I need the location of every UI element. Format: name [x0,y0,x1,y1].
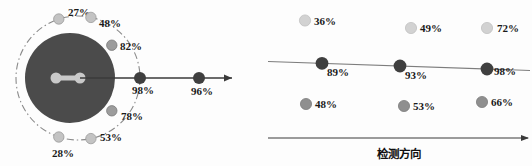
lower-row-point-1[interactable] [300,98,311,109]
ring-label-48: 48% [99,17,121,29]
ring-label-98: 98% [132,84,154,96]
ring-point-53[interactable] [86,133,96,143]
upper-row-label-1: 36% [314,15,336,27]
ring-point-28[interactable] [54,132,64,142]
ring-label-78: 78% [121,110,143,122]
dumbbell-left-node [51,73,62,84]
upper-row-label-2: 49% [420,22,442,34]
upper-row-point-2[interactable] [405,22,416,33]
upper-row-label-3: 72% [497,22,519,34]
ring-label-53: 53% [100,131,122,143]
detection-direction-label: 检测方向 [377,147,421,161]
middle-row-label-2: 93% [405,69,427,81]
middle-row-label-1: 89% [327,66,349,78]
ring-label-82: 82% [120,40,142,52]
axis-label-96: 96% [191,85,213,97]
lower-row-label-2: 53% [413,100,435,112]
middle-row-point-3[interactable] [481,63,494,76]
ring-point-27[interactable] [54,14,64,24]
axis-point-96[interactable] [193,72,205,84]
upper-row-point-3[interactable] [481,22,492,33]
right-panel: 36% 49% 72% 89% 93% 98% 48% 53% 66% 检测方向 [268,15,530,162]
lower-row-point-2[interactable] [398,100,409,111]
ring-point-78[interactable] [107,106,117,116]
lower-row-label-1: 48% [315,98,337,110]
left-panel: 27% 48% 82% 98% 78% 53% 28% 96% [16,6,232,160]
figure-canvas: 27% 48% 82% 98% 78% 53% 28% 96% 36% [0,0,532,166]
middle-row-label-3: 98% [494,65,516,77]
ring-point-48[interactable] [86,12,96,22]
ring-label-28: 28% [52,147,74,159]
horizontal-arrow-head [224,75,232,82]
upper-row-point-1[interactable] [299,15,310,26]
ring-point-98[interactable] [134,72,146,84]
detection-direction-arrow-head [521,135,529,141]
ring-point-82[interactable] [107,40,117,50]
lower-row-label-3: 66% [491,96,513,108]
detection-figure: 27% 48% 82% 98% 78% 53% 28% 96% 36% [0,0,532,166]
lower-row-point-3[interactable] [476,96,487,107]
